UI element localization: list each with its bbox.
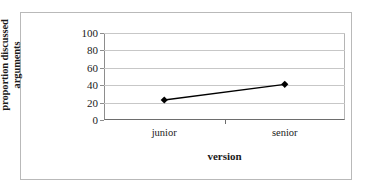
y-tick-label: 60 [87, 62, 98, 74]
data-point-junior [161, 96, 168, 103]
x-tick-label-junior: junior [152, 127, 177, 138]
y-tick-label: 100 [82, 27, 99, 39]
chart-figure: proportion discussed arguments 020406080… [0, 0, 374, 191]
y-tick-label: 0 [93, 114, 99, 126]
x-tick-mark [225, 120, 226, 124]
plot-area: 020406080100 juniorsenior [104, 33, 345, 120]
y-tick-label: 40 [87, 79, 98, 91]
x-tick-label-senior: senior [272, 127, 298, 138]
series-line [164, 84, 285, 100]
series-line-junior-senior [104, 33, 345, 120]
y-axis-title: proportion discussed arguments [0, 10, 28, 120]
data-point-senior [281, 81, 288, 88]
y-tick-label: 80 [87, 44, 98, 56]
x-axis-title: version [104, 150, 345, 162]
y-tick-mark [100, 120, 104, 121]
y-tick-label: 20 [87, 97, 98, 109]
